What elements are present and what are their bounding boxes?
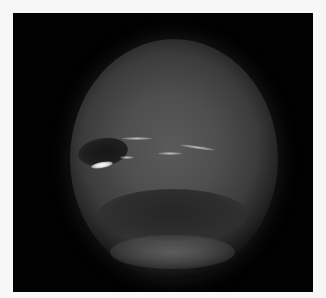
cloud-streak bbox=[158, 152, 182, 155]
light-polar-region bbox=[110, 235, 235, 269]
cloud-streak bbox=[180, 144, 215, 152]
neptune-disk bbox=[70, 39, 278, 279]
space-background bbox=[13, 13, 313, 292]
dark-southern-band bbox=[98, 189, 248, 241]
cloud-streak bbox=[122, 137, 152, 140]
cloud-streak bbox=[120, 156, 134, 159]
